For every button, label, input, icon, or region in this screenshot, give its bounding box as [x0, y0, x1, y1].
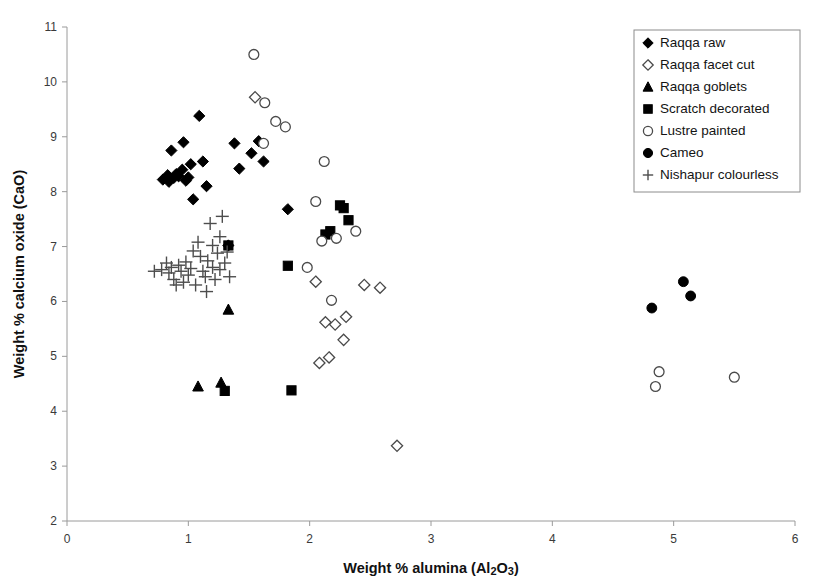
data-point-lustre-painted — [280, 122, 290, 132]
data-point-lustre-painted — [351, 226, 361, 236]
y-tick-label: 9 — [50, 130, 57, 144]
legend-label: Raqqa facet cut — [660, 57, 755, 72]
scatter-plot: 2345678910110123456Weight % calcium oxid… — [0, 0, 820, 587]
x-tick-label: 6 — [792, 532, 799, 546]
data-point-lustre-painted — [271, 116, 281, 126]
x-tick-label: 3 — [428, 532, 435, 546]
data-point-raqqa-facet-cut — [249, 92, 260, 103]
data-point-scratch-decorated — [287, 386, 296, 395]
data-point-raqqa-goblets — [216, 377, 227, 387]
data-point-raqqa-facet-cut — [338, 334, 349, 345]
data-point-raqqa-raw — [234, 163, 245, 174]
data-point-lustre-painted — [651, 382, 661, 392]
data-point-lustre-painted — [259, 138, 269, 148]
data-point-raqqa-raw — [194, 110, 205, 121]
data-point-lustre-painted — [311, 197, 321, 207]
data-point-raqqa-facet-cut — [374, 282, 385, 293]
data-point-lustre-painted — [654, 367, 664, 377]
legend-label: Nishapur colourless — [660, 167, 779, 182]
y-tick-label: 8 — [50, 185, 57, 199]
legend-marker-square-filled — [644, 105, 653, 114]
data-point-scratch-decorated — [339, 204, 348, 213]
data-point-raqqa-facet-cut — [320, 317, 331, 328]
x-tick-label: 5 — [670, 532, 677, 546]
data-point-raqqa-raw — [166, 145, 177, 156]
y-tick-label: 7 — [50, 240, 57, 254]
data-point-raqqa-facet-cut — [391, 440, 402, 451]
data-point-lustre-painted — [327, 295, 337, 305]
x-axis-title: Weight % alumina (Al2O3) — [343, 560, 519, 577]
y-tick-label: 5 — [50, 349, 57, 363]
x-tick-label: 0 — [64, 532, 71, 546]
data-point-lustre-painted — [249, 50, 259, 60]
legend-marker-circle-filled — [643, 148, 652, 157]
data-point-raqqa-raw — [282, 204, 293, 215]
data-point-scratch-decorated — [224, 241, 233, 250]
y-tick-label: 6 — [50, 294, 57, 308]
data-point-lustre-painted — [317, 236, 327, 246]
data-point-raqqa-goblets — [193, 381, 204, 391]
y-tick-label: 4 — [50, 404, 57, 418]
data-point-raqqa-facet-cut — [323, 352, 334, 363]
legend-label: Lustre painted — [660, 123, 746, 138]
x-tick-label: 1 — [185, 532, 192, 546]
legend-label: Raqqa goblets — [660, 79, 747, 94]
chart-container: 2345678910110123456Weight % calcium oxid… — [0, 0, 820, 587]
data-point-raqqa-raw — [188, 194, 199, 205]
legend-marker-circle-open — [643, 126, 652, 135]
data-point-raqqa-raw — [197, 156, 208, 167]
data-point-raqqa-raw — [258, 156, 269, 167]
data-point-lustre-painted — [319, 157, 329, 167]
data-point-raqqa-facet-cut — [359, 279, 370, 290]
data-point-cameo — [647, 303, 657, 313]
y-tick-label: 3 — [50, 459, 57, 473]
data-point-lustre-painted — [729, 372, 739, 382]
data-point-raqqa-facet-cut — [340, 311, 351, 322]
legend-label: Raqqa raw — [660, 35, 726, 50]
data-point-cameo — [678, 277, 688, 287]
data-point-raqqa-raw — [201, 181, 212, 192]
data-point-raqqa-raw — [246, 148, 257, 159]
data-point-raqqa-facet-cut — [330, 319, 341, 330]
data-point-lustre-painted — [260, 98, 270, 108]
data-point-lustre-painted — [302, 262, 312, 272]
x-tick-label: 2 — [306, 532, 313, 546]
data-point-scratch-decorated — [283, 261, 292, 270]
legend-label: Cameo — [660, 145, 704, 160]
data-point-cameo — [686, 291, 696, 301]
data-point-scratch-decorated — [344, 216, 353, 225]
y-tick-label: 11 — [45, 20, 58, 34]
data-point-raqqa-raw — [178, 137, 189, 148]
y-axis-title: Weight % calcium oxide (CaO) — [11, 170, 27, 379]
data-point-raqqa-facet-cut — [314, 357, 325, 368]
y-tick-label: 10 — [44, 75, 58, 89]
data-point-raqqa-raw — [229, 138, 240, 149]
data-point-scratch-decorated — [220, 386, 229, 395]
x-tick-label: 4 — [549, 532, 556, 546]
data-point-raqqa-goblets — [223, 304, 234, 314]
data-point-lustre-painted — [331, 233, 341, 243]
y-tick-label: 2 — [50, 514, 57, 528]
data-point-raqqa-facet-cut — [310, 276, 321, 287]
legend-label: Scratch decorated — [660, 101, 770, 116]
